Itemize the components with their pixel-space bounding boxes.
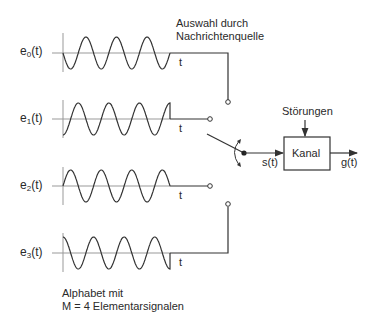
time-label-e2: t (179, 189, 182, 202)
channel-output-label: g(t) (341, 156, 358, 169)
channel-label: Kanal (292, 147, 320, 160)
signal-e0-waveform (52, 33, 230, 104)
source-selection-line1: Auswahl durch (176, 17, 264, 30)
alphabet-line2: M = 4 Elementarsignalen (62, 300, 184, 313)
alphabet-line1: Alphabet mit (62, 287, 184, 300)
source-selection-line2: Nachrichtenquelle (176, 30, 264, 43)
signal-label-e3: e3(t) (20, 246, 42, 262)
disturbance-label: Störungen (282, 105, 333, 118)
time-label-e3: t (179, 256, 182, 269)
signal-e3-waveform (52, 202, 230, 272)
signal-label-e0: e0(t) (20, 45, 42, 61)
time-label-e1: t (179, 122, 182, 135)
time-label-e0: t (179, 56, 182, 69)
switch-output-label: s(t) (262, 156, 278, 169)
source-selection-label: Auswahl durch Nachrichtenquelle (176, 17, 264, 43)
signal-label-e2: e2(t) (20, 179, 42, 195)
alphabet-label: Alphabet mit M = 4 Elementarsignalen (62, 287, 184, 313)
signal-e1-waveform (52, 100, 212, 138)
signal-label-e1: e1(t) (20, 112, 42, 128)
signal-e2-waveform (52, 167, 212, 205)
diagram-canvas (0, 0, 372, 323)
